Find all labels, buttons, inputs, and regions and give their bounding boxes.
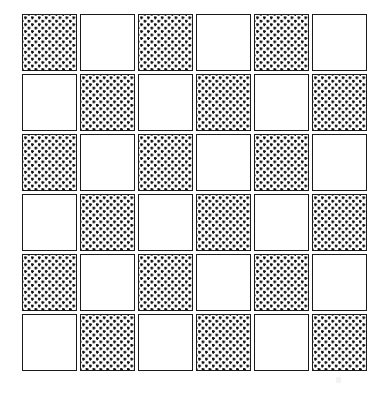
board-cell-plain-r0-c3 [196, 14, 251, 71]
board-cell-plain-r2-c5 [312, 134, 367, 191]
board-cell-plain-r5-c4 [254, 314, 309, 371]
board-cell-dotted-r0-c2 [138, 14, 193, 71]
board-cell-plain-r2-c1 [80, 134, 135, 191]
board-cell-dotted-r3-c5 [312, 194, 367, 251]
board-cell-plain-r5-c2 [138, 314, 193, 371]
board-cell-dotted-r0-c4 [254, 14, 309, 71]
board-cell-plain-r3-c0 [22, 194, 77, 251]
board-cell-plain-r4-c3 [196, 254, 251, 311]
board-cell-plain-r0-c5 [312, 14, 367, 71]
board-cell-dotted-r1-c1 [80, 74, 135, 131]
board-cell-plain-r1-c2 [138, 74, 193, 131]
board-cell-dotted-r4-c4 [254, 254, 309, 311]
board-cell-dotted-r4-c2 [138, 254, 193, 311]
board-cell-dotted-r4-c0 [22, 254, 77, 311]
board-cell-dotted-r3-c1 [80, 194, 135, 251]
checkerboard-figure [0, 0, 373, 394]
board-cell-dotted-r5-c5 [312, 314, 367, 371]
checkerboard-grid [22, 14, 367, 371]
board-cell-dotted-r5-c1 [80, 314, 135, 371]
board-cell-plain-r1-c4 [254, 74, 309, 131]
board-cell-dotted-r5-c3 [196, 314, 251, 371]
scan-artifact [336, 377, 341, 383]
board-cell-plain-r3-c4 [254, 194, 309, 251]
board-cell-dotted-r2-c2 [138, 134, 193, 191]
board-cell-plain-r1-c0 [22, 74, 77, 131]
board-cell-plain-r4-c5 [312, 254, 367, 311]
board-cell-plain-r3-c2 [138, 194, 193, 251]
board-cell-plain-r2-c3 [196, 134, 251, 191]
board-cell-dotted-r2-c4 [254, 134, 309, 191]
board-cell-plain-r4-c1 [80, 254, 135, 311]
board-cell-plain-r0-c1 [80, 14, 135, 71]
board-cell-dotted-r2-c0 [22, 134, 77, 191]
board-cell-dotted-r1-c3 [196, 74, 251, 131]
board-cell-plain-r5-c0 [22, 314, 77, 371]
board-cell-dotted-r0-c0 [22, 14, 77, 71]
board-cell-dotted-r1-c5 [312, 74, 367, 131]
board-cell-dotted-r3-c3 [196, 194, 251, 251]
